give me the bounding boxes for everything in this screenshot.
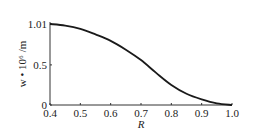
line-chart: 0.40.50.60.70.80.91.0 00.51.01 R w • 10⁶… bbox=[0, 0, 254, 138]
x-axis-label: R bbox=[137, 118, 145, 130]
x-tick-label: 0.9 bbox=[195, 107, 209, 119]
data-line bbox=[50, 24, 232, 105]
y-axis-label: w • 10⁶ /m bbox=[16, 40, 28, 87]
x-tick-label: 0.8 bbox=[164, 107, 178, 119]
x-tick-label: 1.0 bbox=[225, 107, 239, 119]
y-tick-label: 0.5 bbox=[33, 59, 47, 71]
y-ticks: 00.51.01 bbox=[28, 18, 52, 111]
x-tick-label: 0.5 bbox=[73, 107, 87, 119]
y-tick-label: 1.01 bbox=[28, 18, 47, 30]
x-tick-label: 0.6 bbox=[104, 107, 118, 119]
axes bbox=[50, 22, 232, 105]
y-tick-label: 0 bbox=[42, 99, 48, 111]
